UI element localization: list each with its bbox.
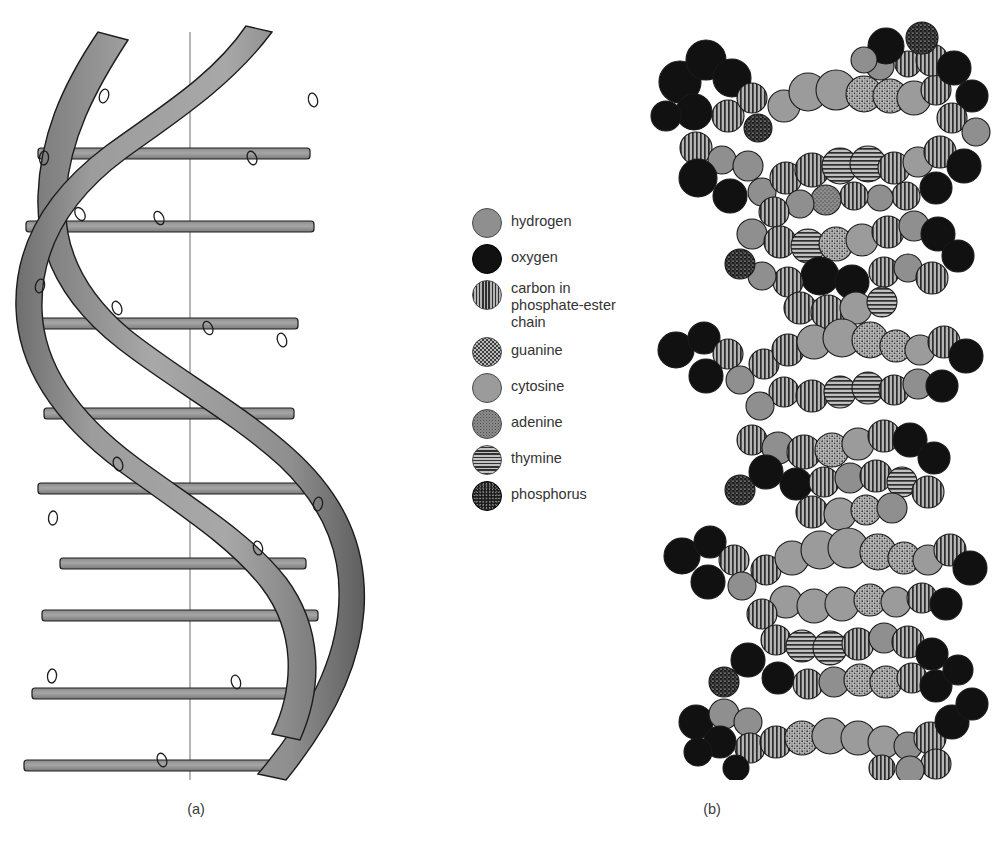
cytosine-swatch-icon: [472, 373, 502, 403]
helix-ribbon-panel: [0, 18, 370, 788]
legend-item-cytosine: cytosine: [472, 373, 652, 403]
carbon-swatch-icon: [472, 280, 502, 310]
legend-label-hydrogen: hydrogen: [511, 208, 571, 230]
helix-ribbon-illustration: [0, 18, 370, 788]
caption-panel-a: (a): [156, 801, 236, 817]
thymine-swatch-icon: [472, 445, 502, 475]
legend-label-guanine: guanine: [511, 337, 563, 359]
legend-label-carbon: carbon in phosphate-ester chain: [511, 280, 616, 331]
legend-item-guanine: guanine: [472, 337, 652, 367]
dna-structure-figure: hydrogen oxygen carbon in phosphate-este…: [0, 0, 992, 861]
guanine-swatch-icon: [472, 337, 502, 367]
legend-item-carbon: carbon in phosphate-ester chain: [472, 280, 652, 331]
hydrogen-swatch-icon: [472, 208, 502, 238]
legend-item-phosphorus: phosphorus: [472, 481, 652, 511]
atom-legend: hydrogen oxygen carbon in phosphate-este…: [472, 208, 652, 517]
phosphorus-swatch-icon: [472, 481, 502, 511]
legend-item-oxygen: oxygen: [472, 244, 652, 274]
legend-label-thymine: thymine: [511, 445, 562, 467]
adenine-swatch-icon: [472, 409, 502, 439]
legend-label-oxygen: oxygen: [511, 244, 558, 266]
legend-label-phosphorus: phosphorus: [511, 481, 587, 503]
legend-item-adenine: adenine: [472, 409, 652, 439]
space-filling-panel: [636, 20, 992, 780]
legend-item-hydrogen: hydrogen: [472, 208, 652, 238]
caption-panel-b: (b): [672, 801, 752, 817]
legend-label-cytosine: cytosine: [511, 373, 564, 395]
oxygen-swatch-icon: [472, 244, 502, 274]
atom-sphere-cluster: [651, 22, 990, 780]
space-filling-model-illustration: [636, 20, 992, 780]
legend-item-thymine: thymine: [472, 445, 652, 475]
legend-label-adenine: adenine: [511, 409, 563, 431]
